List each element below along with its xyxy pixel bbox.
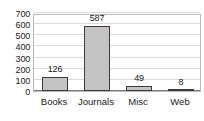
bar-value-label: 49 (134, 74, 144, 83)
bar-value-label: 587 (90, 14, 104, 23)
bar (84, 26, 110, 91)
x-axis: BooksJournalsMiscWeb (33, 96, 201, 110)
bars-layer: 126587498 (34, 15, 200, 91)
bar-value-label: 126 (48, 65, 62, 74)
plot-area: 126587498 (33, 14, 201, 92)
x-tick-label: Books (41, 96, 67, 107)
y-tick-label: 700 (0, 10, 30, 19)
y-tick-label: 0 (0, 88, 30, 97)
y-tick-label: 200 (0, 65, 30, 74)
bar-value-label: 8 (179, 78, 184, 87)
y-tick-label: 600 (0, 21, 30, 30)
x-tick-label: Web (170, 96, 189, 107)
bar-group: 587 (76, 15, 118, 91)
y-tick-label: 500 (0, 32, 30, 41)
bar-chart: 0100200300400500600700 126587498 BooksJo… (0, 0, 204, 121)
bar (42, 77, 68, 91)
y-tick-label: 300 (0, 54, 30, 63)
bar-group: 8 (160, 15, 202, 91)
y-tick-label: 100 (0, 76, 30, 85)
bar-group: 49 (118, 15, 160, 91)
bar (168, 89, 194, 91)
x-tick-label: Journals (78, 96, 114, 107)
bar (126, 86, 152, 91)
x-tick-label: Misc (128, 96, 148, 107)
y-axis: 0100200300400500600700 (0, 14, 30, 92)
gridline (34, 12, 200, 13)
bar-group: 126 (34, 15, 76, 91)
y-tick-label: 400 (0, 43, 30, 52)
